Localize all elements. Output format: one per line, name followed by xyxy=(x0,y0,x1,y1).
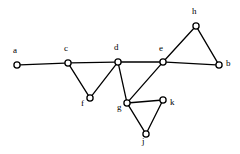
graph-edge-e-b xyxy=(166,62,216,65)
graph-vertex-c[interactable] xyxy=(65,60,71,66)
graph-vertex-b[interactable] xyxy=(216,62,222,68)
vertex-label-e: e xyxy=(159,44,163,53)
vertex-label-g: g xyxy=(117,103,122,112)
vertex-layer xyxy=(14,23,222,137)
vertex-label-k: k xyxy=(170,98,175,107)
graph-figure: acdebfghkj xyxy=(0,0,240,154)
graph-vertex-d[interactable] xyxy=(115,59,121,65)
vertex-label-b: b xyxy=(226,59,231,68)
graph-edge-k-j xyxy=(147,103,161,131)
graph-edge-h-b xyxy=(198,29,218,63)
graph-edge-c-d xyxy=(71,62,115,63)
graph-vertex-f[interactable] xyxy=(87,95,93,101)
graph-edge-c-f xyxy=(70,66,89,96)
graph-edge-j-g xyxy=(129,106,145,132)
graph-vertex-g[interactable] xyxy=(124,100,130,106)
graph-vertex-e[interactable] xyxy=(160,59,166,65)
graph-vertex-k[interactable] xyxy=(160,97,166,103)
graph-vertex-h[interactable] xyxy=(193,23,199,29)
graph-vertex-a[interactable] xyxy=(14,62,20,68)
vertex-label-j: j xyxy=(142,137,145,146)
vertex-label-d: d xyxy=(114,43,119,52)
graph-edge-f-d xyxy=(92,64,116,95)
vertex-label-h: h xyxy=(192,7,197,16)
graph-edge-e-h xyxy=(165,28,194,59)
graph-edge-g-e xyxy=(129,64,161,100)
graph-edge-a-c xyxy=(20,63,65,65)
graph-edge-g-k xyxy=(130,100,160,102)
graph-canvas xyxy=(0,0,240,154)
graph-edge-d-g xyxy=(119,65,127,100)
vertex-label-a: a xyxy=(13,46,17,55)
vertex-label-f: f xyxy=(81,99,84,108)
vertex-label-c: c xyxy=(64,44,68,53)
